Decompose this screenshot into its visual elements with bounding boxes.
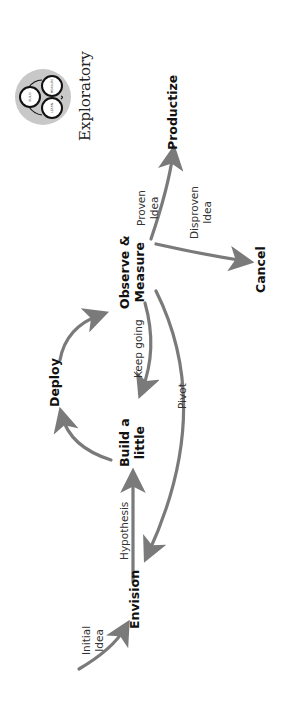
node-cancel: Cancel	[253, 246, 268, 293]
cancel-label: Cancel	[253, 246, 268, 293]
pivot-arrow	[148, 291, 184, 554]
disproven-arrow	[156, 244, 245, 261]
deploy-to-observe-arrow	[60, 315, 100, 360]
svg-text:LEARN: LEARN	[50, 103, 54, 113]
build-label-line1: Build a	[117, 418, 132, 467]
hypothesis-label: Hypothesis	[118, 502, 131, 560]
keep-going-label: Keep going	[132, 319, 145, 378]
svg-text:BUILD: BUILD	[28, 92, 32, 102]
deploy-label: Deploy	[47, 358, 62, 407]
build-label-line2: little	[132, 418, 147, 467]
envision-label: Envision	[127, 570, 142, 629]
node-envision: Envision	[127, 570, 142, 629]
observe-label-line1: Observe &	[117, 235, 132, 309]
svg-text:MEASURE: MEASURE	[50, 79, 54, 94]
diagram-title: Exploratory	[76, 51, 94, 141]
node-observe-measure: Observe & Measure	[117, 235, 147, 309]
cycle-icon: BUILD LEARN MEASURE	[14, 68, 72, 126]
proven-idea-label: Proven Idea	[135, 190, 161, 226]
observe-label-line2: Measure	[132, 235, 147, 309]
initial-idea-label: Initial Idea	[80, 626, 106, 655]
exploratory-diagram: Envision Build a little Deploy Observe &…	[0, 0, 283, 709]
pivot-label: Pivot	[176, 383, 189, 409]
node-deploy: Deploy	[47, 358, 62, 407]
productize-label: Productize	[165, 75, 180, 150]
node-productize: Productize	[165, 75, 180, 150]
disproven-idea-label: Disproven Idea	[188, 186, 214, 239]
node-build-a-little: Build a little	[117, 418, 147, 467]
build-to-deploy-arrow	[62, 416, 111, 460]
